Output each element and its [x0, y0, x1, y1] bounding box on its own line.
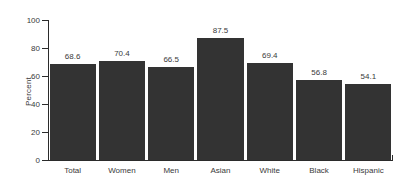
- x-axis-category-label: Black: [294, 166, 343, 175]
- x-axis-category-label: Hispanic: [344, 166, 393, 175]
- y-axis-tick-label: 0: [2, 156, 40, 165]
- y-axis-tick-label: 20: [2, 128, 40, 137]
- x-axis-category-label: Total: [48, 166, 97, 175]
- x-axis-category-labels: TotalWomenMenAsianWhiteBlackHispanic: [48, 166, 393, 180]
- y-axis-tick-label: 100: [2, 16, 40, 25]
- bar-slot: 69.4: [247, 20, 293, 160]
- bar: [50, 64, 96, 160]
- bar-slot: 70.4: [99, 20, 145, 160]
- bar: [296, 80, 342, 160]
- bar-value-label: 70.4: [99, 49, 145, 58]
- bar-slot: 56.8: [296, 20, 342, 160]
- x-axis-line: [48, 160, 393, 161]
- x-axis-category-label: Asian: [196, 166, 245, 175]
- bar-value-label: 69.4: [247, 51, 293, 60]
- bar-slot: 66.5: [148, 20, 194, 160]
- x-axis-category-label: White: [245, 166, 294, 175]
- bar: [148, 67, 194, 160]
- y-axis-tick-label: 60: [2, 72, 40, 81]
- bar-slot: 87.5: [197, 20, 243, 160]
- x-axis-category-label: Women: [97, 166, 146, 175]
- bar-value-label: 87.5: [197, 26, 243, 35]
- bar-slot: 68.6: [50, 20, 96, 160]
- x-axis-category-label: Men: [147, 166, 196, 175]
- bar: [197, 38, 243, 161]
- bar-value-label: 54.1: [345, 72, 391, 81]
- bar-value-label: 68.6: [50, 52, 96, 61]
- bar: [345, 84, 391, 160]
- y-axis-tick-labels: 020406080100: [0, 0, 40, 183]
- bar-series: 68.670.466.587.569.456.854.1: [48, 20, 393, 160]
- bar-value-label: 66.5: [148, 55, 194, 64]
- y-axis-tick-label: 40: [2, 100, 40, 109]
- y-axis-tick-label: 80: [2, 44, 40, 53]
- bar-value-label: 56.8: [296, 68, 342, 77]
- bar: [99, 61, 145, 160]
- bar-chart: Percent 020406080100 68.670.466.587.569.…: [0, 0, 405, 183]
- bar: [247, 63, 293, 160]
- bar-slot: 54.1: [345, 20, 391, 160]
